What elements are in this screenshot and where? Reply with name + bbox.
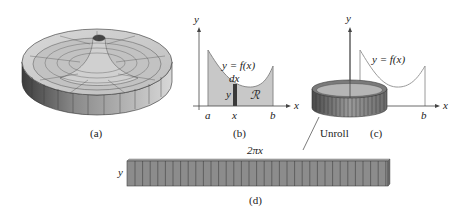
d-length-label: 2πx [247, 145, 263, 156]
panel-d-strip [127, 159, 390, 186]
c-tick-b: b [421, 110, 427, 121]
b-axis-x-label: x [294, 100, 299, 111]
d-height-label: y [118, 167, 123, 178]
caption-a: (a) [90, 128, 102, 139]
caption-d: (d) [249, 195, 262, 206]
b-dx-label: dx [229, 73, 239, 84]
diagram-canvas [0, 0, 467, 213]
c-axis-x-label: x [443, 100, 448, 111]
b-tick-x: x [232, 110, 237, 121]
b-curve-label: y = f(x) [222, 60, 255, 71]
c-curve-label: y = f(x) [372, 54, 405, 65]
b-tick-b: b [270, 110, 276, 121]
b-tick-a: a [205, 110, 211, 121]
b-strip-y-label: y [226, 89, 231, 100]
caption-b: (b) [233, 128, 246, 139]
panel-a-solid [22, 29, 172, 115]
unroll-label: Unroll [320, 128, 349, 139]
b-region-label: ℛ [250, 89, 260, 101]
b-axis-y-label: y [194, 14, 199, 25]
c-axis-y-label: y [346, 13, 351, 24]
caption-c: (c) [370, 128, 382, 139]
